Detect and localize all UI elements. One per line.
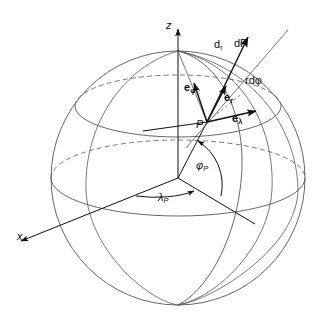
x-axis-label: x bbox=[17, 231, 23, 242]
e-phi-label: eφ bbox=[184, 82, 195, 95]
equatorial-projection-ray bbox=[178, 178, 255, 224]
e-r-label: er bbox=[224, 92, 233, 105]
e-lambda-label: eλ bbox=[232, 113, 242, 126]
dr-subscript: r bbox=[220, 43, 223, 52]
x-axis-line bbox=[21, 178, 178, 241]
phi-subscript: P bbox=[203, 164, 208, 173]
dr-label: dr bbox=[214, 39, 223, 52]
diagram-canvas bbox=[0, 0, 323, 321]
meridian-left-front bbox=[86, 51, 178, 305]
lambda-subscript: P bbox=[163, 196, 168, 205]
angle-arcs-group bbox=[136, 141, 222, 197]
e-phi-subscript: φ bbox=[190, 86, 195, 95]
rdphi-label: rdφ bbox=[245, 75, 262, 86]
point-p-label: P bbox=[196, 119, 203, 130]
spherical-coordinates-figure: z x P eφ er eλ dr dP rdφ φP λP bbox=[0, 0, 323, 321]
e-phi-arrow bbox=[194, 83, 207, 122]
phi-p-label: φP bbox=[196, 160, 208, 173]
dP-label: dP bbox=[234, 38, 247, 49]
lambda-p-label: λP bbox=[158, 192, 168, 205]
z-axis-label: z bbox=[166, 20, 172, 31]
e-lambda-subscript: λ bbox=[238, 117, 242, 126]
e-r-subscript: r bbox=[230, 96, 233, 105]
